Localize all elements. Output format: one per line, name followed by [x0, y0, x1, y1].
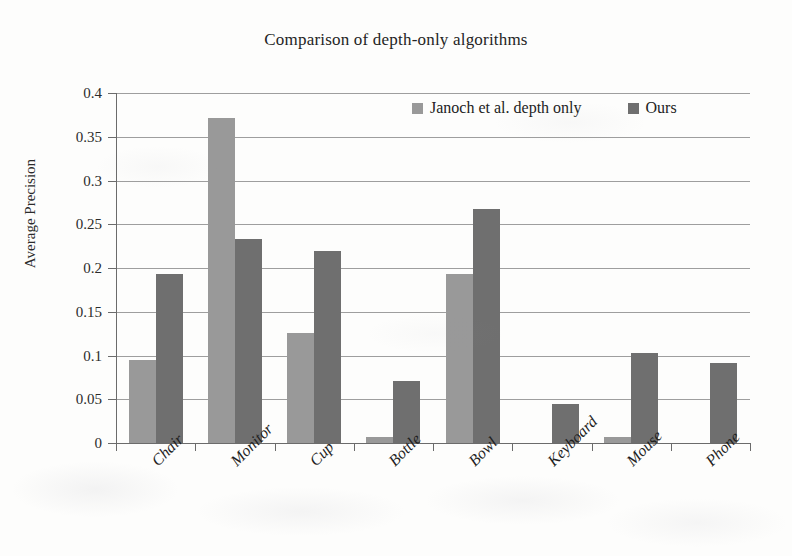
y-axis-tick-mark	[108, 312, 117, 313]
y-axis-title: Average Precision	[22, 124, 39, 304]
bar-group	[354, 93, 433, 443]
y-axis-tick-labels: 00.050.10.150.20.250.30.350.4	[36, 0, 102, 556]
bar-group	[433, 93, 512, 443]
bar	[129, 360, 156, 443]
y-axis-tick-label: 0.25	[40, 216, 102, 233]
y-axis-tick-mark	[108, 268, 117, 269]
chart-page: Comparison of depth-only algorithms 00.0…	[0, 0, 792, 556]
y-axis-tick-label: 0.15	[40, 303, 102, 320]
bar	[314, 251, 341, 444]
legend-swatch-icon	[412, 103, 423, 114]
bar-group	[592, 93, 671, 443]
bar-group	[512, 93, 591, 443]
x-axis-tick-mark	[116, 443, 117, 451]
bar-group	[275, 93, 354, 443]
y-axis-tick-mark	[108, 224, 117, 225]
legend-label: Janoch et al. depth only	[430, 99, 582, 117]
x-axis-tick-mark	[195, 443, 196, 451]
bar	[604, 437, 631, 443]
bar-group	[116, 93, 195, 443]
bar-group	[195, 93, 274, 443]
bar	[473, 209, 500, 443]
chart-title: Comparison of depth-only algorithms	[0, 30, 792, 50]
y-axis-tick-mark	[108, 137, 117, 138]
y-axis-tick-label: 0	[40, 435, 102, 452]
y-axis-tick-label: 0.2	[40, 260, 102, 277]
y-axis-tick-label: 0.35	[40, 128, 102, 145]
bar-group	[671, 93, 750, 443]
legend-label: Ours	[646, 99, 677, 117]
y-axis-tick-mark	[108, 181, 117, 182]
bar	[366, 437, 393, 443]
x-axis-tick-mark	[354, 443, 355, 451]
legend-entry: Ours	[628, 99, 677, 117]
y-axis-tick-mark	[108, 399, 117, 400]
y-axis-tick-label: 0.3	[40, 172, 102, 189]
legend-swatch-icon	[628, 103, 639, 114]
x-axis-tick-mark	[433, 443, 434, 451]
y-axis-tick-mark	[108, 93, 117, 94]
x-axis-tick-mark	[512, 443, 513, 451]
y-axis-tick-label: 0.1	[40, 347, 102, 364]
x-axis-tick-mark	[671, 443, 672, 451]
legend-entry: Janoch et al. depth only	[412, 99, 582, 117]
y-axis-tick-label: 0.05	[40, 391, 102, 408]
x-axis-tick-mark	[750, 443, 751, 451]
bar	[235, 239, 262, 443]
y-axis-tick-label: 0.4	[40, 85, 102, 102]
y-axis-tick-mark	[108, 356, 117, 357]
bar	[208, 118, 235, 443]
bar	[156, 274, 183, 443]
plot-area	[116, 93, 750, 443]
x-axis-tick-mark	[592, 443, 593, 451]
bar	[446, 274, 473, 443]
x-axis-tick-mark	[275, 443, 276, 451]
chart-legend: Janoch et al. depth onlyOurs	[412, 99, 677, 117]
bar	[287, 333, 314, 443]
